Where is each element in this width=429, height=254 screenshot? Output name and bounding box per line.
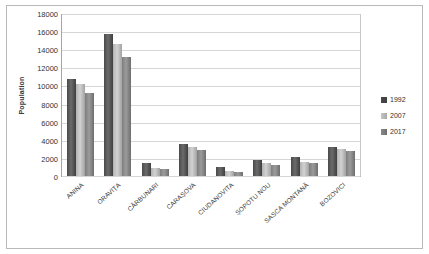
bar xyxy=(271,165,280,176)
bar xyxy=(253,160,262,176)
bar xyxy=(328,147,337,176)
y-axis-tick-label: 6000 xyxy=(22,118,58,127)
bar xyxy=(76,84,85,176)
plot-area xyxy=(61,14,361,177)
bar xyxy=(300,162,309,176)
bar-groups xyxy=(62,14,360,176)
x-axis-tick-label: ANINA xyxy=(65,181,85,200)
bar xyxy=(262,163,271,176)
chart-figure: Population 18000160001400012000100008000… xyxy=(0,0,429,254)
bar xyxy=(179,144,188,176)
legend-swatch-icon xyxy=(381,113,387,119)
bar-group xyxy=(211,14,248,176)
legend-label: 1992 xyxy=(390,96,406,103)
bar xyxy=(142,163,151,176)
bar xyxy=(225,171,234,176)
legend-label: 2007 xyxy=(390,112,406,119)
bar xyxy=(188,147,197,176)
legend-item: 1992 xyxy=(381,96,406,103)
y-axis-tick-label: 2000 xyxy=(22,154,58,163)
bar-group xyxy=(323,14,360,176)
bar xyxy=(234,172,243,176)
y-axis-tick-label: 10000 xyxy=(22,82,58,91)
bar xyxy=(337,149,346,176)
bar xyxy=(67,79,76,176)
gridline xyxy=(62,176,360,177)
bar xyxy=(85,93,94,176)
bar-group xyxy=(248,14,285,176)
chart-legend: 199220072017 xyxy=(381,96,406,135)
bar-group xyxy=(99,14,136,176)
y-axis-tick-label: 16000 xyxy=(22,28,58,37)
x-axis-tick-label: ORAVIȚA xyxy=(96,181,122,205)
x-axis-tick-cell: BOZOVICI xyxy=(324,179,362,229)
bar xyxy=(216,167,225,176)
y-axis-tick-label: 8000 xyxy=(22,100,58,109)
bar xyxy=(160,169,169,176)
legend-swatch-icon xyxy=(381,129,387,135)
legend-item: 2017 xyxy=(381,128,406,135)
bar-group xyxy=(137,14,174,176)
legend-swatch-icon xyxy=(381,97,387,103)
bar xyxy=(104,34,113,176)
bar xyxy=(309,163,318,176)
bar xyxy=(113,44,122,176)
x-axis-tick-label: BOZOVICI xyxy=(319,181,347,208)
y-axis-tick-label: 4000 xyxy=(22,136,58,145)
bar xyxy=(346,151,355,176)
legend-item: 2007 xyxy=(381,112,406,119)
bar-group xyxy=(286,14,323,176)
x-axis-tick-cell: SASCA MONTANĂ xyxy=(286,179,324,229)
y-axis-tick-label: 12000 xyxy=(22,64,58,73)
bar xyxy=(122,57,131,176)
legend-label: 2017 xyxy=(390,128,406,135)
bar xyxy=(291,157,300,176)
bar xyxy=(151,168,160,176)
x-axis-tick-cell: ANINA xyxy=(61,179,99,229)
y-axis-tick-labels: 1800016000140001200010000800060004000200… xyxy=(22,14,58,177)
y-axis-tick-label: 18000 xyxy=(22,10,58,19)
x-axis-tick-labels: ANINAORAVIȚACĂRBUNARICARAȘOVACIUDANOVITA… xyxy=(61,179,361,229)
y-axis-tick-label: 0 xyxy=(22,173,58,182)
bar-group xyxy=(62,14,99,176)
bar xyxy=(197,150,206,176)
y-axis-tick-label: 14000 xyxy=(22,46,58,55)
bar-group xyxy=(174,14,211,176)
